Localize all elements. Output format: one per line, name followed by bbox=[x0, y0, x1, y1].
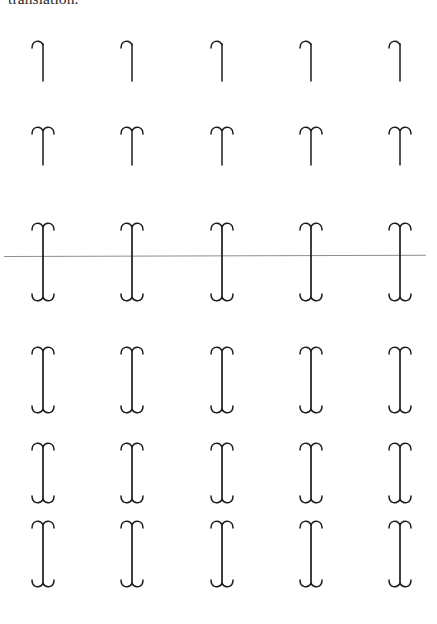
glyph-full-ibeam-r4c1 bbox=[20, 342, 66, 418]
glyph-stroke-2 bbox=[222, 347, 233, 354]
glyph-stroke-3 bbox=[32, 580, 43, 587]
glyph-full-ibeam-r4c5 bbox=[377, 342, 423, 418]
glyph-stroke-svg bbox=[109, 516, 155, 592]
glyph-stroke-svg bbox=[20, 342, 66, 418]
glyph-hook-r1c3 bbox=[199, 36, 245, 84]
glyph-stroke-svg bbox=[199, 516, 245, 592]
glyph-stroke-4 bbox=[222, 294, 233, 301]
glyph-stroke-4 bbox=[400, 294, 411, 301]
glyph-full-ibeam-r3c2 bbox=[109, 218, 155, 306]
glyph-stroke-svg bbox=[20, 36, 66, 84]
glyph-full-ibeam-r3c3 bbox=[199, 218, 245, 306]
glyph-full-ibeam-r5c3 bbox=[199, 438, 245, 508]
glyph-full-ibeam-r6c3 bbox=[199, 516, 245, 592]
glyph-stroke-svg bbox=[199, 218, 245, 306]
glyph-top-arch-r2c1 bbox=[20, 122, 66, 168]
glyph-stroke-svg bbox=[377, 218, 423, 306]
glyph-stroke-2 bbox=[43, 443, 54, 450]
glyph-stroke-1 bbox=[32, 347, 43, 354]
glyph-stroke-2 bbox=[43, 127, 54, 134]
glyph-stroke-1 bbox=[121, 223, 132, 230]
glyph-stroke-1 bbox=[389, 223, 400, 230]
glyph-stroke-2 bbox=[311, 521, 322, 528]
glyph-hook-r1c4 bbox=[288, 36, 334, 84]
glyph-stroke-2 bbox=[400, 521, 411, 528]
glyph-stroke-2 bbox=[132, 521, 143, 528]
glyph-stroke-1 bbox=[121, 41, 132, 48]
glyph-stroke-svg bbox=[288, 438, 334, 508]
glyph-stroke-1 bbox=[300, 41, 311, 48]
glyph-stroke-2 bbox=[400, 443, 411, 450]
glyph-stroke-svg bbox=[377, 122, 423, 168]
glyph-stroke-4 bbox=[43, 406, 54, 413]
glyph-stroke-2 bbox=[222, 223, 233, 230]
glyph-stroke-4 bbox=[311, 580, 322, 587]
glyph-full-ibeam-r3c5 bbox=[377, 218, 423, 306]
glyph-stroke-4 bbox=[132, 580, 143, 587]
glyph-stroke-1 bbox=[300, 127, 311, 134]
glyph-top-arch-r2c2 bbox=[109, 122, 155, 168]
glyph-stroke-svg bbox=[20, 218, 66, 306]
glyph-stroke-svg bbox=[288, 218, 334, 306]
glyph-full-ibeam-r5c5 bbox=[377, 438, 423, 508]
glyph-hook-r1c1 bbox=[20, 36, 66, 84]
glyph-stroke-3 bbox=[211, 294, 222, 301]
glyph-stroke-1 bbox=[211, 443, 222, 450]
glyph-stroke-4 bbox=[222, 580, 233, 587]
glyph-stroke-4 bbox=[400, 580, 411, 587]
glyph-stroke-3 bbox=[300, 294, 311, 301]
glyph-stroke-svg bbox=[20, 438, 66, 508]
glyph-stroke-1 bbox=[300, 347, 311, 354]
glyph-stroke-3 bbox=[121, 406, 132, 413]
glyph-stroke-2 bbox=[311, 347, 322, 354]
glyph-stroke-3 bbox=[211, 496, 222, 503]
glyph-stroke-2 bbox=[311, 443, 322, 450]
glyph-stroke-1 bbox=[211, 41, 222, 48]
glyph-stroke-4 bbox=[222, 406, 233, 413]
glyph-stroke-1 bbox=[121, 521, 132, 528]
glyph-full-ibeam-r3c1 bbox=[20, 218, 66, 306]
glyph-stroke-4 bbox=[132, 294, 143, 301]
glyph-stroke-2 bbox=[400, 127, 411, 134]
glyph-stroke-1 bbox=[32, 223, 43, 230]
glyph-stroke-3 bbox=[389, 580, 400, 587]
glyph-stroke-svg bbox=[109, 438, 155, 508]
glyph-stroke-svg bbox=[199, 438, 245, 508]
glyph-full-ibeam-r5c2 bbox=[109, 438, 155, 508]
glyph-full-ibeam-r4c3 bbox=[199, 342, 245, 418]
glyph-stroke-3 bbox=[211, 580, 222, 587]
glyph-stroke-3 bbox=[32, 406, 43, 413]
glyph-stroke-1 bbox=[389, 41, 400, 48]
glyph-stroke-2 bbox=[311, 127, 322, 134]
glyph-stroke-1 bbox=[211, 521, 222, 528]
glyph-top-arch-r2c5 bbox=[377, 122, 423, 168]
glyph-stroke-1 bbox=[121, 443, 132, 450]
glyph-stroke-1 bbox=[32, 521, 43, 528]
glyph-stroke-1 bbox=[389, 521, 400, 528]
glyph-stroke-3 bbox=[121, 580, 132, 587]
glyph-stroke-1 bbox=[389, 443, 400, 450]
glyph-stroke-2 bbox=[132, 127, 143, 134]
glyph-stroke-3 bbox=[300, 580, 311, 587]
glyph-grid bbox=[0, 0, 437, 624]
glyph-stroke-svg bbox=[288, 516, 334, 592]
glyph-stroke-4 bbox=[43, 496, 54, 503]
glyph-stroke-svg bbox=[199, 342, 245, 418]
glyph-stroke-2 bbox=[222, 521, 233, 528]
glyph-stroke-2 bbox=[222, 127, 233, 134]
glyph-stroke-4 bbox=[311, 294, 322, 301]
glyph-stroke-1 bbox=[300, 443, 311, 450]
glyph-stroke-svg bbox=[377, 438, 423, 508]
glyph-stroke-svg bbox=[109, 122, 155, 168]
glyph-stroke-1 bbox=[121, 127, 132, 134]
glyph-stroke-svg bbox=[377, 516, 423, 592]
glyph-stroke-2 bbox=[43, 347, 54, 354]
glyph-stroke-svg bbox=[288, 36, 334, 84]
glyph-full-ibeam-r6c5 bbox=[377, 516, 423, 592]
glyph-stroke-4 bbox=[311, 406, 322, 413]
glyph-stroke-4 bbox=[400, 496, 411, 503]
glyph-stroke-3 bbox=[211, 406, 222, 413]
glyph-stroke-svg bbox=[20, 516, 66, 592]
glyph-stroke-3 bbox=[389, 406, 400, 413]
glyph-stroke-2 bbox=[132, 347, 143, 354]
